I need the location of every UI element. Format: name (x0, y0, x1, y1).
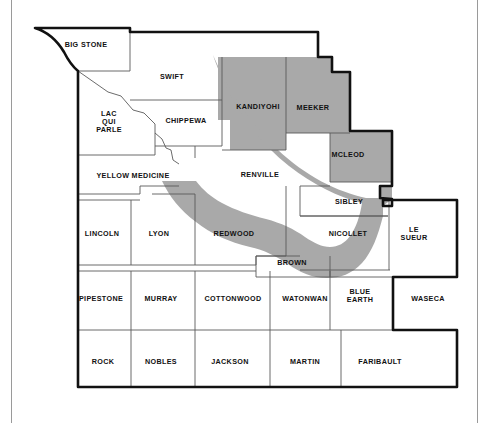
county-label-lac-qui-parle[interactable]: LACQUIPARLE (96, 109, 122, 134)
border-lacquiparle-west (78, 71, 179, 164)
county-label-rock[interactable]: ROCK (92, 357, 115, 366)
county-label-meeker[interactable]: MEEKER (297, 103, 330, 112)
county-label-sibley[interactable]: SIBLEY (335, 197, 363, 206)
county-label-chippewa[interactable]: CHIPPEWA (165, 116, 206, 125)
county-map[interactable]: BIG STONESWIFTLACQUIPARLECHIPPEWAKANDIYO… (0, 0, 489, 423)
county-label-jackson[interactable]: JACKSON (211, 357, 249, 366)
county-label-swift[interactable]: SWIFT (160, 72, 184, 81)
county-label-yellow-medicine[interactable]: YELLOW MEDICINE (96, 171, 169, 180)
county-label-redwood[interactable]: REDWOOD (214, 229, 255, 238)
county-label-lyon[interactable]: LYON (149, 229, 170, 238)
county-map-svg[interactable]: BIG STONESWIFTLACQUIPARLECHIPPEWAKANDIYO… (0, 0, 489, 423)
county-label-big-stone[interactable]: BIG STONE (65, 40, 108, 49)
county-label-faribault[interactable]: FARIBAULT (358, 357, 402, 366)
county-label-brown[interactable]: BROWN (277, 258, 307, 267)
county-label-cottonwood[interactable]: COTTONWOOD (205, 294, 262, 303)
county-label-renville[interactable]: RENVILLE (241, 170, 279, 179)
county-label-kandiyohi[interactable]: KANDIYOHI (236, 102, 279, 111)
county-label-nobles[interactable]: NOBLES (145, 357, 177, 366)
map-page: BIG STONESWIFTLACQUIPARLECHIPPEWAKANDIYO… (0, 0, 489, 423)
county-label-waseca[interactable]: WASECA (411, 294, 445, 303)
county-label-blue-earth[interactable]: BLUEEARTH (347, 287, 374, 304)
county-label-martin[interactable]: MARTIN (290, 357, 320, 366)
county-label-le-sueur[interactable]: LESUEUR (401, 225, 428, 242)
county-label-pipestone[interactable]: PIPESTONE (79, 294, 123, 303)
county-label-mcleod[interactable]: MCLEOD (331, 150, 364, 159)
county-label-murray[interactable]: MURRAY (145, 294, 178, 303)
county-label-lincoln[interactable]: LINCOLN (85, 229, 119, 238)
county-fill-meeker[interactable] (286, 57, 350, 133)
county-label-watonwan[interactable]: WATONWAN (282, 294, 328, 303)
county-label-nicollet[interactable]: NICOLLET (329, 229, 368, 238)
shaded-counties-layer (218, 57, 392, 182)
border-redwood-south (195, 256, 286, 265)
